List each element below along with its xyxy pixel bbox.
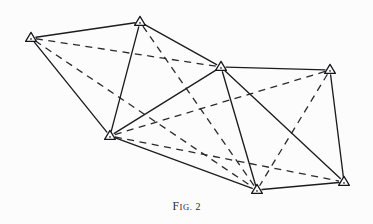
station-marker-D xyxy=(216,61,227,70)
station-triangle-F xyxy=(252,184,263,193)
station-triangle-E xyxy=(325,64,336,73)
station-center-dot-F xyxy=(256,190,258,192)
edge-A-C-solid xyxy=(34,42,107,132)
caption-number: 2 xyxy=(196,201,201,212)
station-center-dot-B xyxy=(139,22,141,24)
edge-D-E-solid xyxy=(226,67,325,70)
station-center-dot-G xyxy=(343,182,345,184)
station-marker-A xyxy=(26,32,37,41)
caption-prefix-rest: IG. xyxy=(179,202,192,212)
station-center-dot-E xyxy=(329,70,331,72)
station-triangle-A xyxy=(26,32,37,41)
edge-B-C-solid xyxy=(111,27,138,131)
edge-E-F-dashed xyxy=(260,74,328,185)
station-markers-group xyxy=(26,16,350,193)
edge-C-E-dashed xyxy=(115,71,325,134)
station-triangle-B xyxy=(135,16,146,25)
station-center-dot-D xyxy=(220,67,222,69)
triangulation-diagram xyxy=(0,0,373,224)
edge-C-D-solid xyxy=(114,70,217,134)
figure-container: FIG.2 xyxy=(0,0,373,224)
solid-observed-lines-group xyxy=(34,23,343,190)
edge-A-D-dashed xyxy=(36,39,216,67)
edge-E-G-solid xyxy=(331,75,344,177)
station-center-dot-C xyxy=(109,136,111,138)
edge-A-B-solid xyxy=(36,23,135,38)
edge-B-D-solid xyxy=(144,24,216,64)
station-marker-B xyxy=(135,16,146,25)
station-center-dot-A xyxy=(30,38,32,40)
edge-C-G-dashed xyxy=(115,137,339,181)
caption-label: FIG. xyxy=(172,200,192,212)
station-marker-F xyxy=(252,184,263,193)
figure-caption: FIG.2 xyxy=(0,196,373,214)
edge-F-G-solid xyxy=(262,182,339,189)
station-triangle-D xyxy=(216,61,227,70)
dashed-sight-lines-group xyxy=(35,26,339,187)
edge-C-F-solid xyxy=(115,138,253,189)
edge-D-F-solid xyxy=(222,72,255,185)
station-marker-E xyxy=(325,64,336,73)
edge-B-F-dashed xyxy=(143,26,254,186)
